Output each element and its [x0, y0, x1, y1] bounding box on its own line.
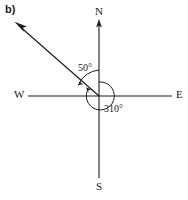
part-label: b) [5, 4, 15, 15]
bearing-diagram-figure: b) N S W E 50° 310° [0, 0, 188, 200]
south-label: S [96, 181, 102, 192]
north-label: N [95, 6, 103, 17]
bearing-angle-label: 310° [104, 104, 123, 114]
inner-angle-label: 50° [78, 63, 92, 73]
west-label: W [14, 89, 24, 100]
east-label: E [176, 89, 183, 100]
compass-diagram-svg [0, 0, 188, 200]
